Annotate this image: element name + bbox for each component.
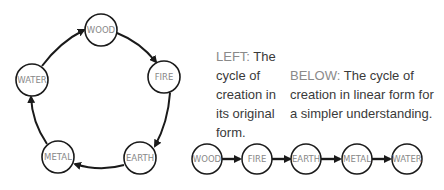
svg-text:EARTH: EARTH — [292, 154, 320, 164]
linear-node-metal: METAL — [342, 144, 372, 174]
svg-text:WOOD: WOOD — [87, 25, 116, 35]
svg-text:FIRE: FIRE — [155, 72, 174, 82]
svg-text:WATER: WATER — [17, 75, 47, 85]
svg-text:FIRE: FIRE — [248, 154, 267, 164]
svg-text:METAL: METAL — [343, 154, 371, 164]
svg-text:WOOD: WOOD — [193, 154, 222, 164]
caption-left: LEFT: The cycle of creation in its origi… — [216, 47, 292, 142]
cycle-node-wood: WOOD — [85, 14, 117, 46]
svg-text:METAL: METAL — [44, 152, 72, 162]
arrow-fire-to-earth — [155, 93, 170, 146]
arrow-water-to-wood — [42, 30, 84, 66]
linear-node-wood: WOOD — [192, 144, 222, 174]
linear-node-fire: FIRE — [242, 144, 272, 174]
caption-below-lead: BELOW: — [290, 68, 340, 83]
caption-below: BELOW: The cycle of creation in linear f… — [290, 66, 440, 123]
svg-text:EARTH: EARTH — [126, 153, 154, 163]
linear-node-earth: EARTH — [291, 144, 321, 174]
cycle-node-metal: METAL — [42, 141, 74, 173]
cycle-node-earth: EARTH — [124, 142, 156, 174]
caption-left-lead: LEFT: — [216, 49, 250, 64]
svg-text:WATER: WATER — [392, 154, 422, 164]
arrow-wood-to-fire — [117, 33, 156, 62]
cycle-node-fire: FIRE — [148, 61, 180, 93]
arrow-earth-to-metal — [75, 164, 124, 168]
cycle-node-water: WATER — [16, 64, 48, 96]
arrow-metal-to-water — [31, 97, 47, 144]
linear-node-water: WATER — [392, 144, 422, 174]
